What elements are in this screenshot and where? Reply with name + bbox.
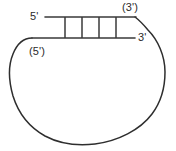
structure-svg [0,0,176,151]
label-five-prime: 5' [30,11,38,22]
label-three-prime-parenthetical: (3') [122,2,138,13]
nucleic-acid-structure-diagram: 5' (3') 3' (5') [0,0,176,151]
label-three-prime: 3' [138,32,146,43]
label-five-prime-parenthetical: (5') [29,46,45,57]
